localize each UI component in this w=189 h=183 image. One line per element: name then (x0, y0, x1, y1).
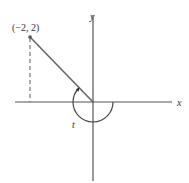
angle-label: t (72, 119, 75, 130)
x-axis-label: x (176, 97, 182, 108)
point-label: (−2, 2) (12, 22, 39, 34)
y-axis-label: y (89, 11, 95, 22)
coordinate-diagram: (−2, 2) y x t (0, 0, 189, 183)
terminal-side-line (30, 37, 93, 102)
point-marker (28, 35, 32, 39)
